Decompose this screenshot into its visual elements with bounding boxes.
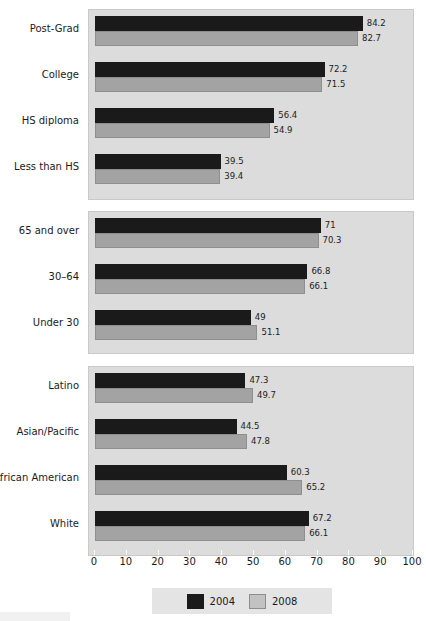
category-label: 30–64 [0,271,79,282]
bar-row: 47.8 [89,434,413,449]
bar-value-label: 47.8 [247,434,270,449]
bar-2008 [95,526,305,541]
x-tick-mark [126,550,127,555]
legend-swatch-2008 [249,594,266,609]
chart-panel-age: 7170.366.866.14951.1 [88,211,414,354]
bar-row: 49 [89,310,413,325]
bar-value-label: 67.2 [309,511,332,526]
bar-row: 54.9 [89,123,413,138]
bar-group: 56.454.9 [89,108,413,138]
category-label: Less than HS [0,161,79,172]
bar-row: 71 [89,218,413,233]
x-tick-mark [221,550,222,555]
bar-row: 66.8 [89,264,413,279]
bar-row: 82.7 [89,31,413,46]
x-tick-mark [94,550,95,555]
bar-2004 [95,154,221,169]
bar-value-label: 70.3 [319,233,342,248]
bar-2004 [95,373,245,388]
bar-value-label: 72.2 [325,62,348,77]
category-label: Post-Grad [0,23,79,34]
bar-value-label: 65.2 [302,480,325,495]
bar-group: 72.271.5 [89,62,413,92]
x-tick-mark [253,550,254,555]
bar-group: 84.282.7 [89,16,413,46]
bar-value-label: 47.3 [245,373,268,388]
bar-row: 49.7 [89,388,413,403]
bar-2004 [95,511,309,526]
x-tick-label: 10 [119,556,132,567]
bar-value-label: 56.4 [274,108,297,123]
category-label: Latino [0,380,79,391]
bar-2008 [95,169,220,184]
bar-value-label: 49 [251,310,266,325]
bar-2008 [95,480,302,495]
bar-2008 [95,325,257,340]
x-tick-mark [158,550,159,555]
bar-2004 [95,62,325,77]
bar-row: 56.4 [89,108,413,123]
panel-plot-area-age: 7170.366.866.14951.1 [89,212,413,353]
category-label: Asian/Pacific [0,426,79,437]
category-label: College [0,69,79,80]
x-tick-mark [412,550,413,555]
x-tick-label: 30 [183,556,196,567]
legend-entry-2008: 2008 [249,594,297,609]
legend-entry-2004: 2004 [187,594,235,609]
bar-group: 7170.3 [89,218,413,248]
category-label: African American [0,472,79,483]
bar-value-label: 51.1 [257,325,280,340]
bar-group: 47.349.7 [89,373,413,403]
panel-plot-area-education: 84.282.772.271.556.454.939.539.4 [89,10,413,199]
chart-panel-race-ethnicity: 47.349.744.547.860.365.267.266.1 [88,366,414,556]
bar-2004 [95,108,274,123]
bar-row: 65.2 [89,480,413,495]
bar-value-label: 54.9 [270,123,293,138]
x-tick-mark [285,550,286,555]
bar-value-label: 39.5 [221,154,244,169]
bar-row: 60.3 [89,465,413,480]
bar-row: 84.2 [89,16,413,31]
bar-2004 [95,218,321,233]
bar-value-label: 44.5 [237,419,260,434]
bar-2004 [95,16,363,31]
x-tick-mark [189,550,190,555]
bar-value-label: 66.1 [305,526,328,541]
x-tick-mark [317,550,318,555]
x-tick-mark [348,550,349,555]
chart-legend: 2004 2008 [152,588,332,614]
x-tick-label: 70 [310,556,323,567]
bar-row: 66.1 [89,526,413,541]
bar-group: 66.866.1 [89,264,413,294]
bar-row: 72.2 [89,62,413,77]
panel-plot-area-race-ethnicity: 47.349.744.547.860.365.267.266.1 [89,367,413,555]
x-tick-mark [380,550,381,555]
category-label: White [0,518,79,529]
x-tick-label: 0 [91,556,97,567]
legend-swatch-2004 [187,594,204,609]
bar-row: 44.5 [89,419,413,434]
x-tick-label: 50 [247,556,260,567]
bar-value-label: 49.7 [253,388,276,403]
bar-2004 [95,264,307,279]
bar-row: 39.5 [89,154,413,169]
bar-row: 47.3 [89,373,413,388]
bar-group: 4951.1 [89,310,413,340]
bar-value-label: 66.1 [305,279,328,294]
bar-value-label: 71 [321,218,336,233]
x-tick-label: 20 [151,556,164,567]
bar-row: 39.4 [89,169,413,184]
grouped-bar-chart: 84.282.772.271.556.454.939.539.4 7170.36… [0,0,426,621]
bar-row: 71.5 [89,77,413,92]
bar-value-label: 66.8 [307,264,330,279]
x-axis: 0102030405060708090100 [88,556,414,574]
category-label: Under 30 [0,317,79,328]
bar-2008 [95,388,253,403]
bar-2008 [95,31,358,46]
bar-row: 66.1 [89,279,413,294]
bar-2004 [95,419,237,434]
bar-value-label: 39.4 [220,169,243,184]
chart-panel-education: 84.282.772.271.556.454.939.539.4 [88,9,414,200]
bar-2008 [95,279,305,294]
bar-2004 [95,310,251,325]
